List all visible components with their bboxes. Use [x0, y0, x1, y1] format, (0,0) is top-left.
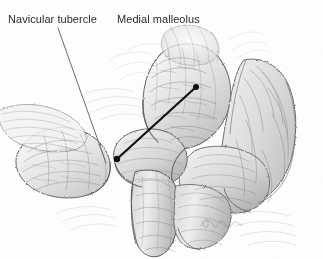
label-medial-malleolus: Medial malleolus [117, 13, 200, 26]
anatomy-figure: Navicular tubercle Medial malleolus [0, 0, 323, 259]
label-navicular-tubercle: Navicular tubercle [8, 13, 97, 26]
anatomical-drawing [0, 0, 323, 259]
